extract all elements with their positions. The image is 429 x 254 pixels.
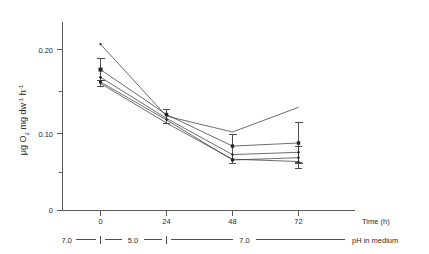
y-caption-h: h <box>18 90 28 98</box>
ph-axis-caption: pH in medium <box>352 236 398 245</box>
y-axis-caption: μg O2 mg dw-1 h-1 <box>18 84 30 155</box>
data-point <box>99 68 103 72</box>
series-line-2 <box>101 70 299 147</box>
ph-label-2: 7.0 <box>239 236 249 245</box>
data-point <box>99 76 102 79</box>
x-tick-label-3: 72 <box>294 217 302 226</box>
y-tick-label-1: 0.10 <box>38 130 53 139</box>
data-point <box>231 158 234 161</box>
y-tick-label-2: 0.20 <box>38 46 53 55</box>
y-caption-sup2: -1 <box>18 84 24 90</box>
chart-canvas: 0 0.10 0.20 0 24 48 72 Time (h) μg O2 mg… <box>0 0 429 254</box>
data-point <box>231 144 234 147</box>
data-point <box>297 151 299 153</box>
svg-text:μg O2 mg dw-1 h-1: μg O2 mg dw-1 h-1 <box>18 84 30 155</box>
y-caption-mid: mg dw <box>18 103 28 133</box>
data-point <box>297 157 299 159</box>
x-tick-label-1: 24 <box>162 217 170 226</box>
series-line-1 <box>101 44 299 132</box>
series-line-4 <box>101 82 299 160</box>
chart-figure: 0 0.10 0.20 0 24 48 72 Time (h) μg O2 mg… <box>0 0 429 254</box>
x-tick-label-2: 48 <box>228 217 236 226</box>
series-line-5 <box>101 84 299 162</box>
ph-label-0: 7.0 <box>62 236 72 245</box>
ph-label-1: 5.0 <box>128 236 138 245</box>
data-point <box>297 141 300 144</box>
data-point <box>99 43 101 45</box>
data-point <box>231 153 233 155</box>
data-point <box>165 118 167 120</box>
x-axis-caption: Time (h) <box>362 217 390 226</box>
series-line-3 <box>101 77 299 154</box>
y-caption-mu: μg O <box>18 135 28 155</box>
data-point <box>165 113 168 116</box>
x-tick-label-0: 0 <box>98 217 102 226</box>
data-point <box>297 160 299 162</box>
y-tick-label-0: 0 <box>49 206 53 215</box>
data-point <box>99 81 102 84</box>
